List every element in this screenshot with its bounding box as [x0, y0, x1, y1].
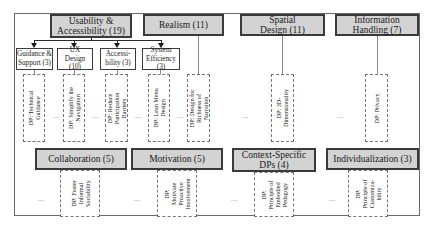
category-realism: Realism (11) — [143, 14, 224, 36]
dp-label: DP: 3D- Dimensionality — [276, 89, 290, 127]
subcategory-accessibility: Accessi-bility (3) — [100, 48, 136, 70]
dp-simplify-navigation: DP: Simplify the Navigation — [63, 74, 85, 142]
dp-label: DP: Technical Guidance — [27, 90, 41, 125]
dp-label: DP: Reduce Participation Barriers — [106, 92, 127, 124]
dp-embodied-pedagogy: DP: Principle of Embodied Pedagogy — [254, 172, 294, 217]
category-usability-accessibility: Usability & Accessibility (19) — [50, 14, 132, 38]
connector-line — [282, 36, 283, 74]
subcategory-guidance-support: Guidance & Support (3) — [16, 48, 53, 70]
category-context-specific: Context-Specific DPs (4) — [232, 148, 316, 172]
ellipsis: ... — [92, 112, 99, 120]
connector-line — [198, 36, 199, 74]
category-label: Context-Specific DPs (4) — [236, 150, 312, 171]
dp-label: DP: Principle of Customiza- bility — [354, 179, 382, 208]
dp-technical-guidance: DP: Technical Guidance — [23, 74, 45, 142]
dp-customizability: DP: Principle of Customiza- bility — [348, 170, 388, 217]
category-motivation: Motivation (5) — [131, 148, 223, 170]
dp-label: DP: Privacy — [373, 93, 380, 123]
dp-label: DP: Motivate Proactive Involvement — [163, 178, 191, 209]
dp-label: DP: Principle of Embodied Pedagogy — [260, 180, 288, 209]
dp-design-richness-narration: DP: Design for Richness of Narration — [187, 74, 210, 142]
category-label: Realism (11) — [159, 20, 208, 31]
category-individualization: Individualization (3) — [326, 148, 419, 170]
ellipsis: ... — [135, 112, 142, 120]
subcategory-label: System Efficiency (3) — [143, 46, 179, 72]
category-spatial-design: Spatial Design (11) — [240, 14, 325, 36]
dp-foster-informal-sociability: DP: Foster Informal Sociability — [60, 170, 100, 217]
ellipsis: ... — [337, 112, 344, 120]
category-label: Usability & Accessibility (19) — [54, 16, 128, 37]
ellipsis: ... — [134, 195, 141, 203]
dp-motivate-proactive-involvement: DP: Motivate Proactive Involvement — [157, 170, 197, 217]
category-label: Motivation (5) — [149, 154, 205, 165]
category-label: Information Handling (7) — [348, 15, 406, 36]
category-label: Collaboration (5) — [48, 154, 114, 165]
ellipsis: ... — [231, 195, 238, 203]
category-label: Individualization (3) — [333, 154, 411, 165]
ellipsis: ... — [177, 112, 184, 120]
ellipsis: ... — [53, 112, 60, 120]
category-collaboration: Collaboration (5) — [35, 148, 127, 170]
dp-label: DP: Lean Menu Design — [152, 88, 166, 128]
dp-lean-menu-design: DP: Lean Menu Design — [148, 74, 170, 142]
ellipsis: ... — [242, 112, 249, 120]
dp-label: DP: Design for Richness of Narration — [188, 89, 209, 126]
dp-privacy: DP: Privacy — [365, 74, 388, 142]
subcategory-label: Guidance & Support (3) — [17, 50, 52, 67]
category-information-handling: Information Handling (7) — [335, 14, 419, 36]
subcategory-label: Accessi-bility (3) — [104, 50, 132, 67]
dp-label: DP: Foster Informal Sociability — [70, 180, 91, 207]
connector-line — [377, 36, 378, 74]
dp-3d-dimensionality: DP: 3D- Dimensionality — [271, 74, 294, 142]
dp-label: DP: Simplify the Navigation — [67, 87, 81, 129]
ellipsis: ... — [329, 195, 336, 203]
ellipsis: ... — [38, 195, 45, 203]
connector-line — [34, 40, 162, 41]
subcategory-label: UX Design (10) — [62, 46, 88, 72]
category-label: Spatial Design (11) — [259, 15, 307, 36]
dp-reduce-participation-barriers: DP: Reduce Participation Barriers — [105, 74, 128, 142]
subcategory-system-efficiency: System Efficiency (3) — [142, 48, 180, 70]
subcategory-ux-design: UX Design (10) — [57, 48, 93, 70]
